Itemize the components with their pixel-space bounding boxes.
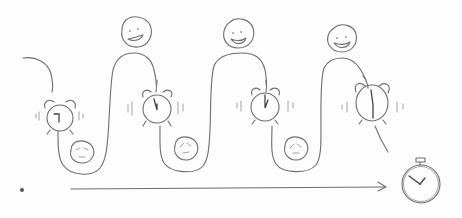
sad-face-1 [71, 141, 94, 163]
wave-path [23, 53, 388, 174]
alarm-clock-1 [36, 100, 83, 134]
stopwatch-icon [402, 158, 440, 203]
alarm-clock-4 [342, 76, 403, 124]
sketch-illustration: Wavy path of daily cycles: alarm clocks … [0, 0, 462, 218]
happy-face-3 [328, 25, 357, 52]
alarm-clock-2 [128, 80, 183, 126]
happy-face-2 [224, 19, 254, 48]
sad-face-2 [175, 137, 198, 160]
timeline-start-dot [20, 188, 24, 192]
sad-face-3 [285, 137, 308, 160]
wave-diagram [0, 0, 462, 218]
alarm-clock-3 [237, 80, 293, 124]
happy-face-1 [122, 17, 152, 47]
timeline-arrow [71, 187, 385, 189]
timeline [20, 182, 386, 192]
